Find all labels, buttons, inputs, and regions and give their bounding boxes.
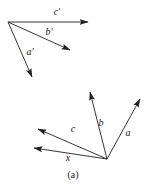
figure-caption: (a) — [67, 170, 78, 180]
vector-arrow-x — [34, 148, 107, 159]
vector-label-b: b — [99, 118, 104, 128]
vector-diagram-figure: c′ b′ a′ a b c x (a) — [0, 0, 145, 191]
vector-label-x: x — [66, 153, 70, 163]
vector-label-a-prime: a′ — [26, 47, 33, 57]
vector-label-c-prime: c′ — [54, 7, 61, 17]
vector-canvas — [0, 0, 145, 191]
vector-arrow-a — [107, 99, 140, 159]
vector-label-c: c — [71, 124, 75, 134]
vector-label-a: a — [126, 128, 131, 138]
vector-label-b-prime: b′ — [45, 27, 52, 37]
vector-arrow-b-prime — [8, 22, 70, 50]
unprimed-vector-group — [34, 92, 140, 159]
